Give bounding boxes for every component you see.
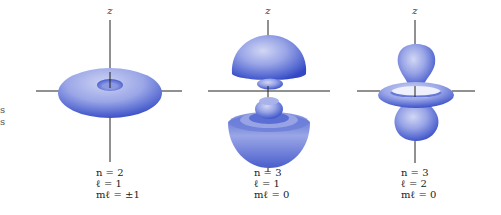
orbital-n3-l1-ml-0 xyxy=(208,20,330,172)
orbital-n3-l2-ml-0 xyxy=(357,20,475,163)
n-label: n = 3 xyxy=(401,167,436,178)
top-lobe xyxy=(398,44,436,88)
l-label: ℓ = 2 xyxy=(401,178,436,189)
z-axis-label-orbital-2: z xyxy=(265,5,270,16)
margin-text-fragment: s xyxy=(0,104,5,115)
margin-text-fragment: s xyxy=(0,116,5,127)
l-label: ℓ = 1 xyxy=(254,178,289,189)
z-axis-label-orbital-1: z xyxy=(107,5,112,16)
l-label: ℓ = 1 xyxy=(96,178,140,189)
quantum-numbers-orbital-1: n = 2 ℓ = 1 mℓ = ±1 xyxy=(96,167,140,200)
top-small-lobe xyxy=(257,79,283,90)
n-label: n = 2 xyxy=(96,167,140,178)
quantum-numbers-orbital-2: n = 3 ℓ = 1 mℓ = 0 xyxy=(254,167,289,200)
ml-label: mℓ = 0 xyxy=(401,189,436,200)
ml-label: mℓ = ±1 xyxy=(96,189,140,200)
top-dome-lobe xyxy=(232,35,306,80)
bottom-small-lobe-top xyxy=(259,97,279,105)
orbital-n2-l1-ml-pm1 xyxy=(36,20,182,162)
quantum-numbers-orbital-3: n = 3 ℓ = 2 mℓ = 0 xyxy=(401,167,436,200)
ml-label: mℓ = 0 xyxy=(254,189,289,200)
bottom-lobe xyxy=(394,104,438,141)
n-label: n = 3 xyxy=(254,167,289,178)
z-axis-label-orbital-3: z xyxy=(412,5,417,16)
